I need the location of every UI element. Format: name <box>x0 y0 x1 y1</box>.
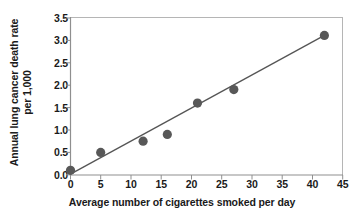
data-point-series <box>66 31 329 175</box>
x-axis-tick-labels: 0 5 10 15 20 25 30 35 40 45 <box>0 179 364 193</box>
data-point <box>193 99 202 108</box>
x-tick-label: 10 <box>118 179 144 190</box>
y-axis-ticks <box>66 18 71 175</box>
x-tick-label: 20 <box>179 179 205 190</box>
x-tick-label: 35 <box>269 179 295 190</box>
data-point <box>66 166 75 175</box>
data-point <box>96 148 105 157</box>
x-tick-label: 45 <box>330 179 356 190</box>
x-tick-label: 0 <box>58 179 84 190</box>
data-point <box>139 137 148 146</box>
x-axis-title: Average number of cigarettes smoked per … <box>0 196 364 208</box>
x-tick-label: 5 <box>88 179 114 190</box>
data-point <box>320 31 329 40</box>
x-tick-label: 40 <box>300 179 326 190</box>
x-tick-label: 25 <box>209 179 235 190</box>
scatter-chart: Annual lung cancer death rate per 1,000 … <box>0 0 364 217</box>
x-tick-label: 15 <box>148 179 174 190</box>
x-tick-label: 30 <box>239 179 265 190</box>
data-point <box>229 85 238 94</box>
data-point <box>163 130 172 139</box>
